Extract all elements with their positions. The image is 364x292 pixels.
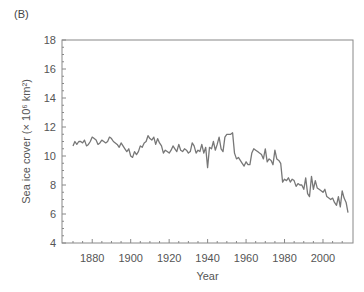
- x-axis-title: Year: [196, 270, 219, 282]
- x-tick-label: 1880: [80, 252, 104, 264]
- y-tick-label: 12: [44, 121, 56, 133]
- svg-text:Sea ice cover (× 10⁶ km²): Sea ice cover (× 10⁶ km²): [20, 79, 32, 204]
- y-axis-ticks: 4681012141618: [44, 34, 66, 249]
- sea-ice-line: [73, 133, 348, 213]
- svg-text:Year: Year: [196, 270, 219, 282]
- y-tick-label: 10: [44, 150, 56, 162]
- y-tick-label: 14: [44, 92, 56, 104]
- y-tick-label: 8: [50, 179, 56, 191]
- x-tick-label: 1980: [272, 252, 296, 264]
- y-tick-label: 6: [50, 208, 56, 220]
- y-tick-label: 16: [44, 63, 56, 75]
- plot-frame: [62, 40, 353, 243]
- x-tick-label: 2000: [311, 252, 335, 264]
- sea-ice-chart: Sea ice cover (× 10⁶ km²) 4681012141618 …: [0, 0, 364, 292]
- y-axis-title: Sea ice cover (× 10⁶ km²): [20, 79, 32, 204]
- y-tick-label: 18: [44, 34, 56, 46]
- y-tick-label: 4: [50, 237, 56, 249]
- x-tick-label: 1940: [195, 252, 219, 264]
- x-tick-label: 1960: [234, 252, 258, 264]
- x-tick-label: 1920: [157, 252, 181, 264]
- x-tick-label: 1900: [118, 252, 142, 264]
